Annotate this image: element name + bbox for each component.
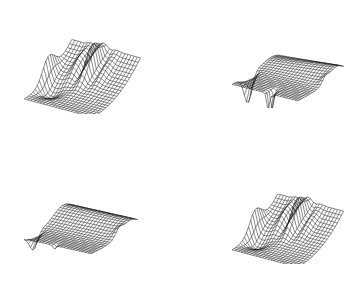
surface-plot-bottom-right xyxy=(226,168,346,264)
wireframe-mesh xyxy=(18,12,143,114)
surface-plot-top-right xyxy=(226,16,346,108)
wireframe-mesh xyxy=(18,174,140,258)
wireframe-mesh xyxy=(226,16,346,108)
surface-plot-bottom-left xyxy=(18,174,140,258)
wireframe-mesh xyxy=(226,168,346,264)
surface-plot-top-left xyxy=(18,12,143,114)
